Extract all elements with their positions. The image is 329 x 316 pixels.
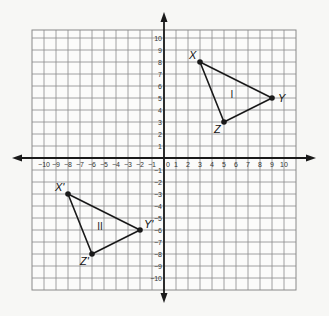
x-tick-label: 3 xyxy=(198,161,202,168)
y-tick-label: −7 xyxy=(154,239,162,246)
y-tick-label: −10 xyxy=(150,275,162,282)
x-tick-label: 7 xyxy=(246,161,250,168)
x-tick-label: −2 xyxy=(136,161,144,168)
y-tick-label: 9 xyxy=(158,47,162,54)
x-tick-label: −9 xyxy=(52,161,60,168)
y-tick-label: 3 xyxy=(158,119,162,126)
x-tick-label: −5 xyxy=(100,161,108,168)
x-tick-label: −6 xyxy=(88,161,96,168)
vertex-label: Y xyxy=(278,92,286,104)
y-tick-label: 7 xyxy=(158,71,162,78)
y-tick-label: −6 xyxy=(154,227,162,234)
coordinate-plane: −10−9−8−7−6−5−4−3−2−112345678910−10−9−8−… xyxy=(0,0,329,316)
x-tick-label: −3 xyxy=(124,161,132,168)
y-tick-label: 2 xyxy=(158,131,162,138)
y-tick-label: −2 xyxy=(154,179,162,186)
y-tick-label: −1 xyxy=(154,167,162,174)
arrow-up-icon xyxy=(161,12,168,22)
y-tick-label: 8 xyxy=(158,59,162,66)
y-tick-label: 4 xyxy=(158,107,162,114)
x-tick-label: 4 xyxy=(210,161,214,168)
triangle-label: II xyxy=(97,221,103,232)
x-tick-label: −10 xyxy=(38,161,50,168)
arrow-left-icon xyxy=(12,155,22,162)
vertex-label: Z' xyxy=(79,255,90,267)
vertex-point xyxy=(197,59,203,65)
x-tick-label: −8 xyxy=(64,161,72,168)
vertex-point xyxy=(65,191,71,197)
y-tick-label: 10 xyxy=(154,35,162,42)
arrow-down-icon xyxy=(161,293,168,303)
y-tick-label: 5 xyxy=(158,95,162,102)
y-tick-label: 1 xyxy=(158,143,162,150)
x-tick-label: −7 xyxy=(76,161,84,168)
vertex-point xyxy=(89,251,95,257)
x-tick-label: 2 xyxy=(186,161,190,168)
origin-label: 0 xyxy=(166,161,170,168)
vertex-point xyxy=(269,95,275,101)
vertex-point xyxy=(137,227,143,233)
y-tick-label: −9 xyxy=(154,263,162,270)
triangle-label: I xyxy=(231,89,234,100)
x-tick-label: 8 xyxy=(258,161,262,168)
x-tick-label: 5 xyxy=(222,161,226,168)
y-tick-label: 6 xyxy=(158,83,162,90)
vertex-label: Y' xyxy=(144,218,154,230)
vertex-label: X' xyxy=(54,181,65,193)
x-tick-label: 10 xyxy=(280,161,288,168)
y-tick-label: −3 xyxy=(154,191,162,198)
vertex-point xyxy=(221,119,227,125)
vertex-label: Z xyxy=(213,123,222,135)
y-tick-label: −8 xyxy=(154,251,162,258)
x-tick-label: 9 xyxy=(270,161,274,168)
x-tick-label: −4 xyxy=(112,161,120,168)
y-tick-label: −5 xyxy=(154,215,162,222)
arrow-right-icon xyxy=(306,155,316,162)
x-tick-label: 6 xyxy=(234,161,238,168)
x-tick-label: 1 xyxy=(174,161,178,168)
y-tick-label: −4 xyxy=(154,203,162,210)
vertex-label: X xyxy=(188,49,197,61)
